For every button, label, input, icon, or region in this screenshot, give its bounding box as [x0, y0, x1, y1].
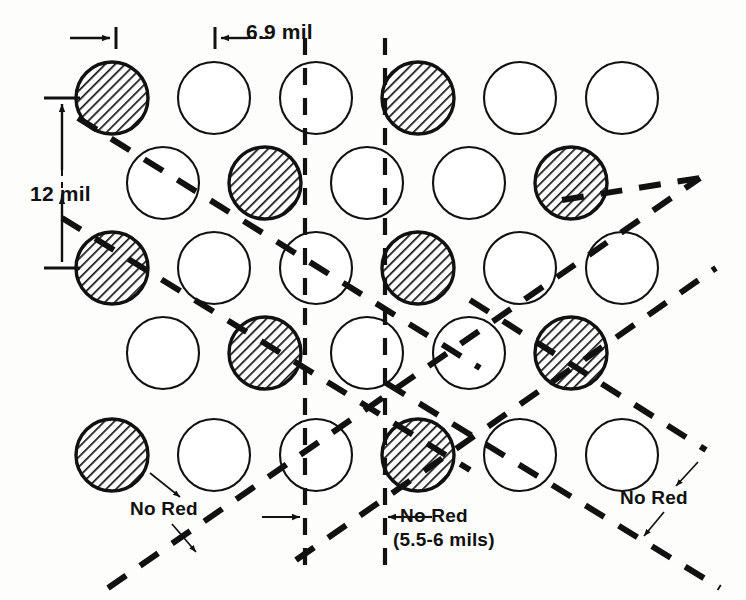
- phosphor-dot-shaded: [382, 232, 454, 304]
- phosphor-dot-open: [484, 232, 556, 304]
- phosphor-dot-open: [331, 147, 403, 219]
- phosphor-dot-shaded: [535, 147, 607, 219]
- phosphor-dot-open: [433, 147, 505, 219]
- figure-root: 12 mil 6.9 mil No Red No Red (5.5-6 mils…: [0, 0, 746, 600]
- phosphor-dot-open: [586, 232, 658, 304]
- phosphor-dot-open: [127, 317, 199, 389]
- no-red-label-left: No Red: [130, 498, 198, 520]
- dot-pattern-diagram: [0, 0, 746, 600]
- no-red-label-center: No Red: [400, 505, 468, 527]
- phosphor-dot-open: [484, 62, 556, 134]
- phosphor-dot-open: [484, 419, 556, 491]
- phosphor-dot-shaded: [76, 419, 148, 491]
- phosphor-dot-open: [280, 62, 352, 134]
- phosphor-dot-open: [178, 419, 250, 491]
- horizontal-pitch-label: 6.9 mil: [246, 20, 313, 44]
- phosphor-dot-open: [178, 62, 250, 134]
- phosphor-dot-open: [331, 317, 403, 389]
- phosphor-dot-open: [178, 232, 250, 304]
- phosphor-dot-open: [586, 62, 658, 134]
- phosphor-dot-shaded: [229, 147, 301, 219]
- phosphor-dot-open: [586, 419, 658, 491]
- phosphor-dot-shaded: [382, 62, 454, 134]
- vertical-pitch-label: 12 mil: [30, 182, 91, 206]
- no-red-band-detail-label: (5.5-6 mils): [393, 529, 495, 551]
- no-red-label-right: No Red: [620, 487, 688, 509]
- phosphor-dot-shaded: [76, 232, 148, 304]
